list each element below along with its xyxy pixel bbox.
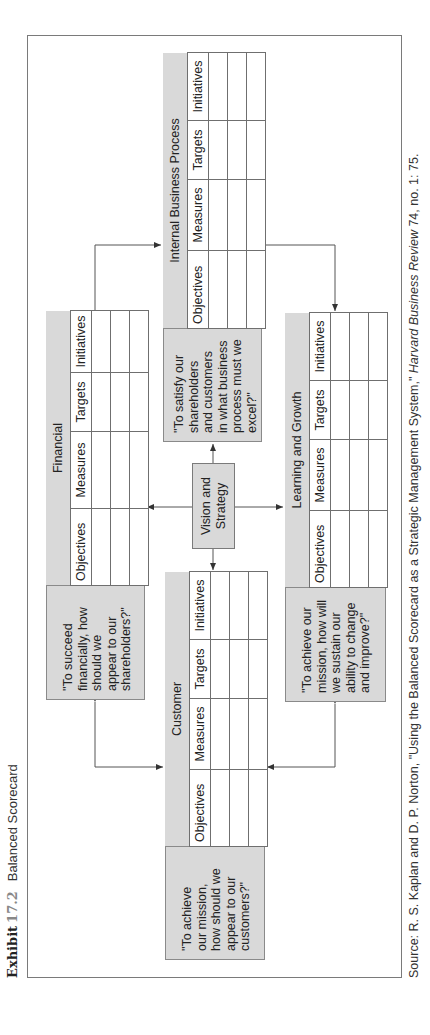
table-row (247, 53, 266, 329)
quote-line: shareholders?" (119, 607, 134, 691)
quote-line: should we (90, 607, 105, 691)
perspective-customer: "To achieve our mission, how should we a… (165, 572, 265, 960)
col-targets: Targets (188, 121, 209, 180)
learning-table: Learning and Growth Objectives Measures … (285, 313, 386, 588)
col-objectives: Objectives (310, 511, 331, 588)
table-row (209, 53, 228, 329)
internal-title: Internal Business Process (163, 53, 187, 329)
source-citation: Source: R. S. Kaplan and D. P. Norton, "… (407, 154, 421, 978)
quote-line: excel?" (245, 339, 260, 433)
internal-table: Internal Business Process Objectives Mea… (163, 53, 262, 329)
quote-line: appear to our (224, 868, 239, 951)
quote-line: our mission, (195, 868, 210, 951)
quote-line: financially, how (76, 607, 91, 691)
quote-line: how should we (209, 868, 224, 951)
learning-grid: Objectives Measures Targets Initiatives (309, 312, 388, 588)
col-initiatives: Initiatives (188, 53, 209, 121)
table-row (228, 53, 247, 329)
financial-title: Financial (46, 311, 70, 586)
quote-line: customers?" (238, 868, 253, 951)
col-measures: Measures (310, 440, 331, 511)
table-row (92, 311, 111, 586)
internal-grid: Objectives Measures Targets Initiatives (187, 52, 266, 329)
quote-line: "To satisfy our (172, 339, 187, 433)
customer-table: Customer Objectives Measures Targets Ini… (165, 572, 265, 847)
table-row (211, 572, 230, 847)
perspective-financial: "To succeed financially, how should we a… (46, 311, 145, 700)
table-row (331, 313, 350, 588)
source-suffix: 74, no. 1: 75. (407, 154, 421, 230)
quote-line: and customers (201, 339, 216, 433)
col-measures: Measures (71, 432, 92, 509)
perspective-learning-growth: "To achieve our mission, how will we sus… (285, 313, 386, 702)
table-row (369, 313, 388, 588)
quote-line: shareholders (187, 339, 202, 433)
quote-line: "To achieve our (300, 600, 315, 693)
col-initiatives: Initiatives (310, 313, 331, 381)
customer-title: Customer (165, 572, 189, 847)
table-row (130, 311, 149, 586)
customer-question: "To achieve our mission, how should we a… (180, 868, 253, 951)
quote-line: mission, how will (315, 600, 330, 693)
col-objectives: Objectives (71, 509, 92, 586)
customer-grid: Objectives Measures Targets Initiatives (189, 571, 268, 847)
financial-question: "To succeed financially, how should we a… (61, 607, 134, 691)
quote-line: and improve?" (358, 600, 373, 693)
col-measures: Measures (190, 699, 211, 770)
table-row (111, 311, 130, 586)
quote-line: we sustain our (329, 600, 344, 693)
table-row (230, 572, 249, 847)
col-objectives: Objectives (188, 251, 209, 329)
arrow-internal-learning (264, 245, 335, 311)
quote-line: ability to change (344, 600, 359, 693)
quote-line: "To succeed (61, 607, 76, 691)
vision-label-line1: Vision and (199, 464, 214, 548)
col-targets: Targets (190, 640, 211, 699)
rotated-page: Exhibit17.2Balanced Scorecard (0, 0, 430, 1035)
quote-line: process must we (230, 339, 245, 433)
col-initiatives: Initiatives (71, 311, 92, 373)
vision-and-strategy-box: Vision and Strategy (192, 463, 235, 549)
learning-question: "To achieve our mission, how will we sus… (300, 600, 373, 693)
financial-grid: Objectives Measures Targets Initiatives (70, 310, 149, 586)
col-targets: Targets (71, 373, 92, 432)
col-targets: Targets (310, 381, 331, 440)
internal-question: "To satisfy our shareholders and custome… (172, 339, 260, 433)
table-row (350, 313, 369, 588)
quote-line: in what business (216, 339, 231, 433)
arrow-financial-customer (95, 702, 163, 767)
vision-label-line2: Strategy (214, 464, 229, 548)
learning-title: Learning and Growth (285, 313, 309, 588)
financial-table: Financial Objectives Measures Targets In… (46, 311, 145, 586)
arrow-learning-customer (267, 704, 335, 767)
source-prefix: Source: R. S. Kaplan and D. P. Norton, "… (407, 373, 421, 978)
arrow-financial-internal (95, 245, 161, 311)
quote-line: appear to our (105, 607, 120, 691)
col-measures: Measures (188, 180, 209, 251)
perspective-internal-business-process: "To satisfy our shareholders and custome… (163, 53, 262, 442)
col-objectives: Objectives (190, 770, 211, 847)
source-journal: Harvard Business Review (407, 230, 421, 373)
quote-line: "To achieve (180, 868, 195, 951)
col-initiatives: Initiatives (190, 572, 211, 640)
table-row (249, 572, 268, 847)
